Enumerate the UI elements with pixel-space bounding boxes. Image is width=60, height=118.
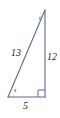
right-angle-marker-icon [38,90,45,97]
apex-angle-label: t [39,15,41,21]
base-length-label: 5 [23,101,28,111]
bottom-left-angle-label: s [14,87,16,93]
right-triangle-figure: 13 12 5 t s [0,0,60,118]
vertical-leg-length-label: 12 [47,52,57,62]
hypotenuse-length-label: 13 [11,48,21,58]
